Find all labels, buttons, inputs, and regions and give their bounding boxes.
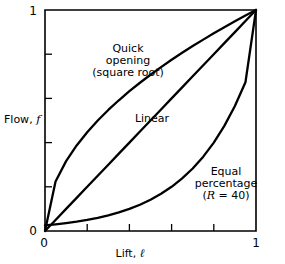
label-ep-variable-r: R <box>206 189 215 202</box>
curve-annotations: Quick opening (square root) Linear Equal… <box>92 42 257 202</box>
y-tick-label-bottom: 0 <box>29 224 37 238</box>
y-axis-title-comma: , <box>29 113 36 126</box>
y-tick-label-top: 1 <box>29 4 37 18</box>
y-axis-ticks <box>45 54 52 187</box>
x-axis-title-text: Lift <box>116 247 134 260</box>
label-linear: Linear <box>135 112 170 125</box>
label-equal-percentage-line3: (R = 40) <box>202 189 249 202</box>
x-tick-label-right: 1 <box>252 236 260 250</box>
y-axis-title-text: Flow <box>4 113 29 126</box>
x-axis-title-comma: , <box>133 247 140 260</box>
axis-titles: Flow, f Lift, ℓ <box>4 112 145 260</box>
y-axis-title: Flow, f <box>4 112 42 126</box>
y-axis-title-variable: f <box>35 112 42 126</box>
x-tick-label-left: 0 <box>40 236 48 250</box>
x-axis-title: Lift, ℓ <box>116 246 145 260</box>
x-axis-ticks <box>87 224 214 231</box>
label-quick-opening-line3: (square root) <box>92 66 164 79</box>
x-axis-title-variable: ℓ <box>140 246 145 260</box>
valve-characteristic-chart: 1 0 0 1 Flow, f Lift, ℓ Quick opening (s… <box>0 0 285 264</box>
label-ep-value: = 40) <box>215 189 250 202</box>
chart-figure: 1 0 0 1 Flow, f Lift, ℓ Quick opening (s… <box>0 0 285 264</box>
